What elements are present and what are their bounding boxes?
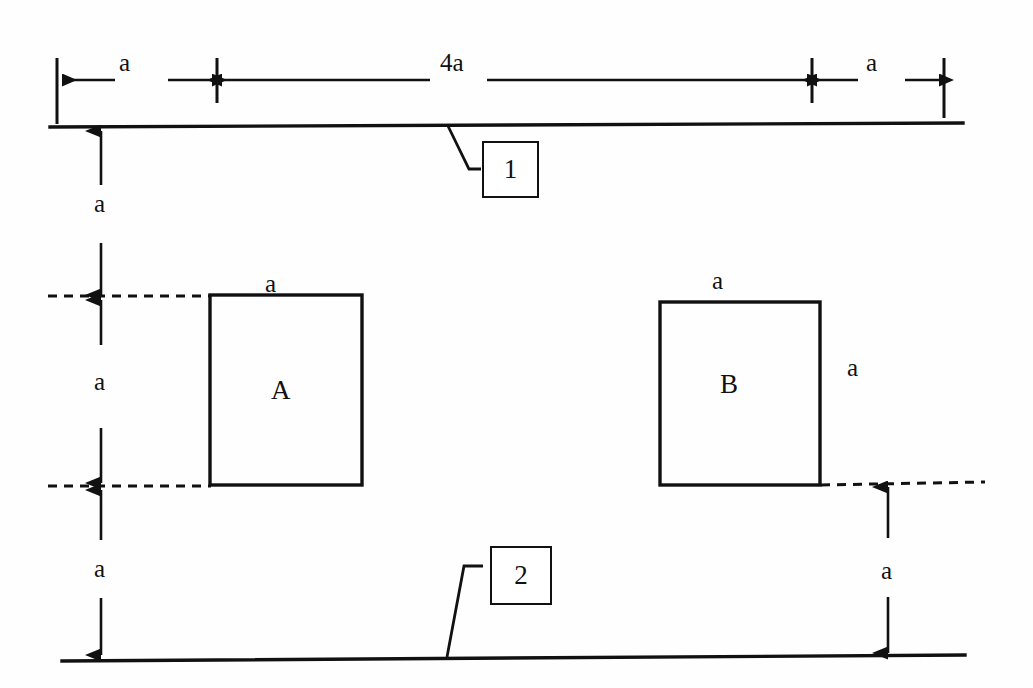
- leader-line-callout-1: [448, 126, 481, 169]
- diagram-canvas: a 4a a a a a a a a a A B 1 2: [0, 0, 1033, 688]
- dimension-label-mid-vertical-a: a: [94, 369, 105, 394]
- callout-box-2[interactable]: 2: [490, 546, 552, 605]
- dimension-label-rect-b-top: a: [712, 268, 723, 293]
- reference-line-1: [50, 123, 963, 127]
- rect-a-label: A: [271, 377, 291, 404]
- callout-box-1[interactable]: 1: [482, 141, 539, 198]
- dimension-label-rect-a-top: a: [265, 271, 276, 296]
- leader-line-callout-2: [447, 566, 483, 657]
- dimension-label-top-span-4a: 4a: [440, 50, 464, 75]
- dimension-label-right-vertical-a: a: [881, 558, 892, 583]
- dimension-label-top-left-a: a: [119, 50, 130, 75]
- dimension-label-top-right-a: a: [866, 50, 877, 75]
- rect-b: [660, 302, 820, 485]
- reference-line-2: [62, 655, 965, 661]
- dimension-label-rect-b-right: a: [847, 355, 858, 380]
- dashed-line-lower-right: [821, 482, 985, 485]
- dimension-label-lower-vertical-a: a: [94, 556, 105, 581]
- dimension-label-upper-vertical-a: a: [94, 191, 105, 216]
- extension-ticks-top: [57, 58, 944, 124]
- rect-b-label: B: [720, 371, 738, 398]
